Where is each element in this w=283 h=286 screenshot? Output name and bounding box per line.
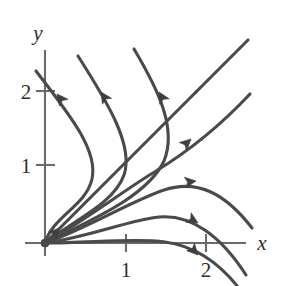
phase-portrait-canvas: y x 2 1 1 2 [0,0,283,286]
arrowhead-trajectory-7 [187,243,202,258]
y-axis-label: y [31,21,43,45]
x-axis-label: x [256,231,267,255]
x-tick-label-1: 1 [121,258,132,282]
x-tick-label-2: 2 [201,258,212,282]
trajectory-5-right [45,186,252,243]
trajectory-separatrix-upper-right [196,40,248,92]
equilibrium-point-origin [41,239,49,247]
y-tick-label-1: 1 [21,154,32,178]
trajectory-2-left [45,56,126,243]
phase-portrait-figure: y x 2 1 1 2 [0,0,283,286]
trajectories-group [36,40,252,286]
trajectory-3-center [45,49,168,243]
y-tick-label-2: 2 [21,80,32,104]
